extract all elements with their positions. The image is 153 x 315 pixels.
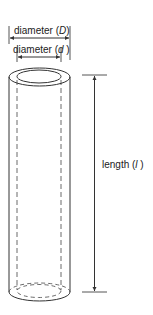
tube-cylinder bbox=[9, 68, 70, 301]
bottom-inner-ellipse-hidden bbox=[17, 285, 61, 298]
outer-diameter-label: diameter (D) bbox=[14, 25, 70, 36]
arrowhead-icon bbox=[18, 55, 22, 59]
arrowhead-icon bbox=[10, 36, 14, 40]
arrowhead-icon bbox=[93, 76, 97, 80]
inner-diameter-dimension: diameter (d ) bbox=[13, 44, 70, 62]
tube-diagram: diameter (D) diameter (d ) length (l bbox=[0, 0, 153, 315]
arrowhead-icon bbox=[65, 36, 69, 40]
arrowhead-icon bbox=[56, 55, 60, 59]
top-inner-ellipse bbox=[17, 70, 61, 83]
inner-diameter-label: diameter (d ) bbox=[13, 44, 70, 55]
length-dimension: length (l ) bbox=[82, 75, 144, 292]
arrowhead-icon bbox=[93, 287, 97, 291]
length-label: length (l ) bbox=[102, 159, 144, 170]
